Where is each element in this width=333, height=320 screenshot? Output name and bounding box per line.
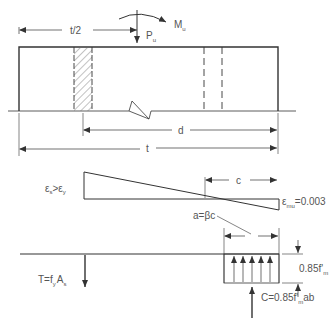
tension-force-label: T=fyAs: [38, 274, 66, 287]
stress-block-arrows: [234, 256, 270, 282]
half-thickness-label: t/2: [70, 25, 82, 36]
moment-label: Mu: [174, 19, 186, 32]
compression-stress-block: [224, 254, 279, 283]
dimensions: d t: [19, 113, 278, 156]
wall-section: [8, 47, 296, 119]
wall-base-line: [8, 111, 296, 119]
block-depth-leader: [217, 216, 251, 234]
wall-outline: [19, 47, 278, 111]
axial-load-label: Pu: [146, 30, 156, 43]
effective-depth-label: d: [178, 125, 184, 136]
strain-profile: [84, 172, 279, 210]
applied-loads: t/2 Pu Mu: [19, 10, 186, 43]
block-depth-label: a=βc: [193, 210, 215, 221]
thickness-label: t: [146, 143, 149, 154]
moment-arrow-icon: [119, 14, 166, 22]
break-symbol-icon: [129, 101, 149, 119]
stress-magnitude-label: 0.85f'm: [299, 263, 328, 276]
steel-strain-label: εs>εy: [45, 183, 66, 195]
masonry-strain-label: εmu=0.003: [282, 196, 326, 209]
wall-flexure-diagram: t/2 Pu Mu d t εs>εy: [0, 0, 333, 320]
neutral-axis-depth-label: c: [236, 175, 241, 186]
stress-diagram: a=βc 0.85f'm T=fyAs C=0.85f'mab: [20, 210, 328, 318]
reinforced-cell-hatch: [74, 47, 92, 111]
compression-force-label: C=0.85f'mab: [261, 292, 315, 305]
strain-diagram: εs>εy c εmu=0.003: [45, 172, 326, 210]
